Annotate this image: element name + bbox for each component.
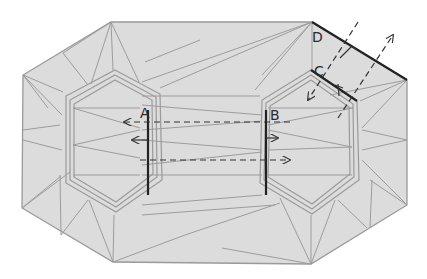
label-a: A — [140, 105, 150, 121]
crease-pattern-diagram: A B C D — [0, 0, 427, 279]
label-d: D — [312, 29, 323, 45]
label-c: C — [314, 63, 324, 79]
label-b: B — [270, 107, 280, 123]
